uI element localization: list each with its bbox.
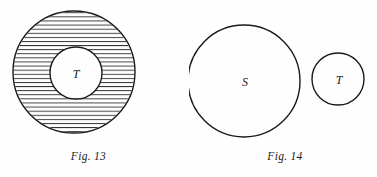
fig-14-t-circle-label: T [336,73,344,87]
figure-13-caption: Fig. 13 [0,150,183,162]
figure-13-panel: T Fig. 13 [0,0,189,177]
figure-14-panel: S T Fig. 14 [189,0,377,177]
fig-14-s-circle-label: S [242,75,248,89]
figure-14-caption: Fig. 14 [191,150,377,162]
figure-14-diagram: S T [189,0,377,148]
figure-plate: T Fig. 13 S T Fig. 14 [0,0,377,177]
figure-13-diagram: T [0,0,189,148]
